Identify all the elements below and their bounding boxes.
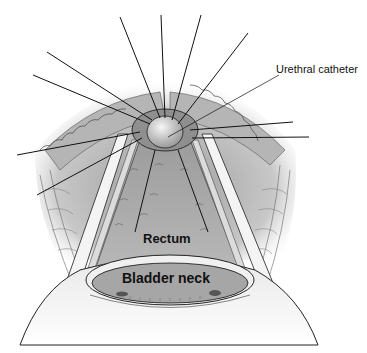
surgical-diagram [0, 0, 367, 353]
label-urethral-catheter: Urethral catheter [276, 63, 358, 75]
label-rectum: Rectum [143, 231, 191, 246]
label-bladder-neck: Bladder neck [122, 270, 210, 286]
